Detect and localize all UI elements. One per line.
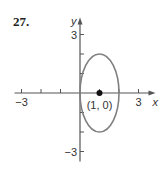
axes	[15, 18, 156, 162]
y-tick-label: 3	[71, 29, 77, 41]
x-axis-label: x	[152, 96, 159, 108]
y-tick-label: −3	[64, 146, 77, 158]
x-tick-label: −3	[15, 96, 28, 108]
y-axis-arrow-icon	[78, 18, 83, 25]
center-point	[97, 90, 103, 96]
y-axis-label: y	[70, 15, 78, 27]
labels: x y −333−3	[15, 15, 158, 158]
ellipse-graph: x y −333−3 (1, 0)	[0, 0, 163, 169]
center-point-label: (1, 0)	[87, 99, 113, 111]
x-tick-label: 3	[135, 96, 141, 108]
x-axis-arrow-icon	[149, 91, 156, 96]
